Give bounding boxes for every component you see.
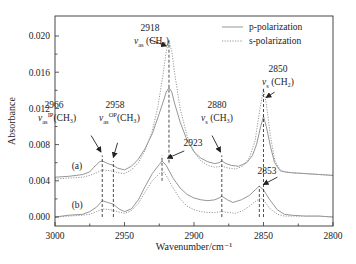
peak-wavenumber-label: 2958 <box>106 100 125 110</box>
arrow-icon <box>264 177 278 184</box>
x-axis-label: Wavenumber/cm⁻¹ <box>156 241 232 252</box>
series-b-p-polarization <box>55 161 333 217</box>
arrow-icon <box>113 143 117 157</box>
curve-label: (a) <box>72 161 83 172</box>
vibration-mode-label: νas (CH₂) <box>134 36 169 48</box>
vibration-mode-label: νs (CH₂) <box>262 77 294 89</box>
y-axis-label: Absorbance <box>6 97 17 145</box>
annotation-2918: 2918νas (CH₂) <box>134 23 169 47</box>
peak-wavenumber-label: 2853 <box>258 166 277 176</box>
series-a-p-polarization <box>55 88 333 178</box>
x-axis: 30002950290028502800 <box>46 222 343 241</box>
peak-wavenumber-label: 2850 <box>269 64 288 74</box>
x-tick-label: 3000 <box>46 231 65 241</box>
arrow-icon <box>91 136 101 152</box>
annotation-2958: 2958νasOP(CH₃) <box>99 100 140 157</box>
curve-label: (b) <box>72 200 83 211</box>
series-b-s-polarization <box>55 172 333 217</box>
annotation-2850: 2850νs (CH₂) <box>262 64 294 97</box>
x-tick-label: 2900 <box>185 231 204 241</box>
legend: p-polarizations-polarization <box>222 22 303 46</box>
absorbance-spectrum-chart: 30002950290028502800 0.0000.0040.0080.01… <box>0 0 356 264</box>
curve-labels: (a)(b) <box>72 161 83 211</box>
vibration-mode-label: νs (CH₃) <box>201 113 233 125</box>
arrow-icon <box>266 92 274 97</box>
vibration-mode-label: νasOP(CH₃) <box>99 111 140 125</box>
y-axis: 0.0000.0040.0080.0120.0160.020 <box>29 31 59 222</box>
peak-wavenumber-label: 2923 <box>184 138 203 148</box>
x-tick-label: 2800 <box>324 231 343 241</box>
x-tick-label: 2850 <box>254 231 273 241</box>
series-layer <box>55 41 333 218</box>
y-tick-label: 0.004 <box>29 176 51 186</box>
peak-wavenumber-label: 2966 <box>45 100 64 110</box>
legend-label-p-polarization: p-polarization <box>249 22 303 32</box>
y-tick-label: 0.000 <box>29 212 51 222</box>
x-tick-label: 2950 <box>115 231 134 241</box>
peak-wavenumber-label: 2918 <box>141 23 160 33</box>
y-tick-label: 0.016 <box>29 68 51 78</box>
arrow-icon <box>212 136 220 152</box>
chart-canvas: 30002950290028502800 0.0000.0040.0080.01… <box>0 0 356 264</box>
plot-frame <box>55 16 333 226</box>
y-tick-label: 0.008 <box>29 140 51 150</box>
peak-wavenumber-label: 2880 <box>208 100 227 110</box>
legend-label-s-polarization: s-polarization <box>249 36 301 46</box>
arrow-icon <box>168 151 185 158</box>
annotation-2880: 2880νs (CH₃) <box>201 100 233 151</box>
annotation-2853: 2853 <box>258 166 278 185</box>
series-a-s-polarization <box>55 41 333 180</box>
y-tick-label: 0.020 <box>29 31 51 41</box>
